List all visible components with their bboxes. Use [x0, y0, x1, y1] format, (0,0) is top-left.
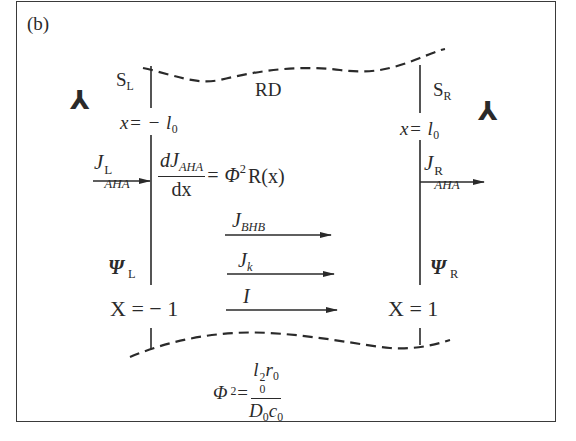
right-flux-sub: AHA: [434, 178, 459, 192]
right-position-sub: 0: [433, 129, 439, 142]
reaction-equation: dJAHA dx = Φ2R(x): [158, 150, 285, 199]
thiele-den-c: c: [269, 400, 277, 421]
right-flux-label: JRAHA: [424, 153, 460, 192]
right-position-var: x: [400, 118, 409, 139]
right-position-value: = l: [409, 118, 433, 139]
right-surface-sub: R: [444, 90, 452, 103]
left-potential-sub: L: [128, 267, 136, 281]
left-surface-symbol: S: [116, 69, 127, 90]
bottom-boundary-dashed: [130, 332, 450, 357]
left-electrode-icon: ⅄: [70, 88, 90, 114]
thiele-lhs-phi: Φ: [213, 383, 227, 402]
right-surface-label: SR: [433, 80, 451, 103]
derivative-num-sub: AHA: [179, 160, 203, 174]
left-flux-sup: L: [104, 163, 129, 177]
right-flux-symbol: J: [424, 151, 433, 175]
left-position-var: x: [120, 112, 129, 133]
left-position-label: x= − l0: [120, 113, 178, 136]
thiele-num-r-sub: 0: [273, 370, 279, 383]
flux-jk-symbol: J: [238, 249, 247, 271]
right-electrode-icon: ⅄: [478, 99, 498, 125]
left-flux-label: JLAHA: [94, 152, 130, 191]
flux-jbhb-sub: BHB: [241, 220, 265, 234]
thiele-den-c-sub: 0: [277, 412, 283, 425]
top-boundary-dashed: [143, 49, 445, 81]
right-potential-sub: R: [450, 267, 458, 281]
right-surface-symbol: S: [433, 79, 444, 100]
reaction-rhs: = Φ2R(x): [206, 163, 285, 185]
flux-label-jk: Jk: [238, 250, 252, 274]
derivative-num: dJ: [160, 149, 179, 171]
thiele-eq: =: [237, 383, 248, 402]
thiele-fraction: l20r0 D0c0: [249, 360, 283, 424]
right-potential-symbol: Ψ: [430, 256, 446, 278]
left-flux-sub: AHA: [104, 177, 129, 191]
diagram-lines: [0, 0, 576, 441]
left-surface-label: SL: [116, 70, 134, 93]
flux-label-jbhb: JBHB: [232, 210, 265, 234]
thiele-modulus-equation: Φ2 = l20r0 D0c0: [213, 360, 283, 424]
flux-jbhb-symbol: J: [232, 209, 241, 231]
left-potential-label: ΨL: [108, 257, 136, 281]
flux-jk-sub: k: [247, 260, 253, 274]
left-dimensionless-position: X = − 1: [110, 298, 178, 320]
right-position-label: x= l0: [400, 119, 440, 142]
right-potential-label: ΨR: [430, 257, 458, 281]
region-label: RD: [255, 80, 281, 99]
thiele-num-l: l: [253, 359, 258, 380]
thiele-num-l-sub: 0: [260, 384, 266, 396]
thiele-den-d: D: [249, 400, 263, 421]
right-flux-sup: R: [434, 164, 459, 178]
flux-label-i: I: [243, 286, 250, 306]
left-potential-symbol: Ψ: [108, 256, 124, 278]
thiele-num-r: r: [265, 359, 272, 380]
flux-i-symbol: I: [243, 285, 250, 307]
left-flux-symbol: J: [94, 150, 103, 174]
left-position-sub: 0: [172, 123, 178, 136]
right-dimensionless-position: X = 1: [388, 298, 438, 320]
panel-label: (b): [27, 14, 49, 33]
derivative-den: dx: [171, 177, 191, 199]
thiele-lhs-sup: 2: [230, 386, 236, 398]
reaction-rhs-phi: = Φ: [206, 165, 240, 187]
left-surface-sub: L: [127, 80, 134, 93]
reaction-rhs-tail: R(x): [248, 165, 285, 187]
reaction-rhs-sup: 2: [240, 162, 246, 176]
left-position-value: = − l: [129, 112, 172, 133]
derivative-fraction: dJAHA dx: [158, 150, 205, 199]
